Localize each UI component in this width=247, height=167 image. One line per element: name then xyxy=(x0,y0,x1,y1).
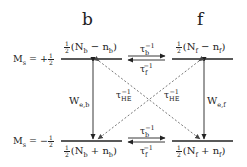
rate-tau-f-lower: τf−1 xyxy=(140,144,153,159)
rate-tau-f-upper: τf−1 xyxy=(140,62,153,77)
population-f-lower: 12(Nf + nf) xyxy=(176,145,225,159)
rate-tau-he-right: τHE−1 xyxy=(164,88,179,103)
rate-w-eb: We,b xyxy=(69,95,89,109)
column-title-f: f xyxy=(197,9,203,29)
rate-tau-he-left: τHE−1 xyxy=(116,88,131,103)
rate-w-ef: We,f xyxy=(207,95,226,109)
population-f-upper: 12(Nf − nf) xyxy=(176,41,225,55)
column-title-b: b xyxy=(82,9,93,29)
rate-tau-b-upper: τb−1 xyxy=(140,42,155,57)
ms-label-lower: Ms = −12 xyxy=(13,135,55,149)
rate-tau-b-lower: τb−1 xyxy=(140,124,155,139)
population-b-upper: 12(Nb − nb) xyxy=(64,41,117,55)
ms-label-upper: Ms = +12 xyxy=(13,53,55,67)
population-b-lower: 12(Nb + nb) xyxy=(64,145,117,159)
